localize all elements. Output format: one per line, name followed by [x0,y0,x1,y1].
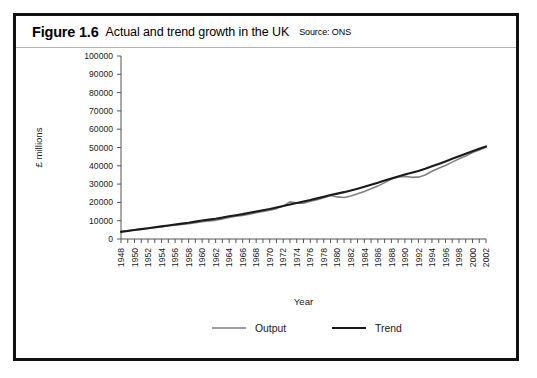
x-tick-label: 1968 [251,248,261,267]
y-tick-label: 50000 [89,143,113,153]
x-tick-label: 1966 [238,248,248,267]
x-tick-label: 1948 [116,248,126,267]
x-tick-label: 1994 [427,248,437,267]
data-series [121,146,486,231]
x-tick-label: 1956 [170,248,180,267]
x-tick-label: 1972 [278,248,288,267]
series-line-trend [121,146,486,231]
y-tick-label: 60000 [89,124,113,134]
y-tick-label: 0 [108,234,113,244]
y-tick-label: 70000 [89,106,113,116]
series-line-output [121,147,486,231]
x-tick-label: 2000 [468,248,478,267]
x-tick-label: 1984 [360,248,370,267]
y-tick-label: 20000 [89,197,113,207]
y-tick-label: 10000 [89,216,113,226]
y-tick-label: 100000 [84,51,113,61]
x-tick-label: 1970 [265,248,275,267]
x-tick-label: 1962 [211,248,221,267]
x-axis: 1948195019521954195619581960196219641966… [116,239,491,267]
x-axis-title: Year [294,296,314,307]
figure-box: Figure 1.6 Actual and trend growth in th… [13,13,519,361]
x-tick-label: 1998 [454,248,464,267]
x-tick-label: 1988 [387,248,397,267]
figure-header: Figure 1.6 Actual and trend growth in th… [16,16,516,48]
y-tick-label: 40000 [89,161,113,171]
x-tick-label: 1960 [197,248,207,267]
x-tick-label: 1950 [130,248,140,267]
x-tick-label: 1976 [305,248,315,267]
line-chart: 0100002000030000400005000060000700008000… [16,48,516,361]
y-axis: 0100002000030000400005000060000700008000… [84,51,121,244]
x-tick-label: 2002 [481,248,491,267]
x-tick-label: 1996 [441,248,451,267]
figure-title: Actual and trend growth in the UK [106,25,290,39]
figure-number: Figure 1.6 [32,24,99,40]
x-tick-label: 1974 [292,248,302,267]
x-tick-label: 1982 [346,248,356,267]
figure-source: Source: ONS [299,27,351,37]
chart-plot-area: 0100002000030000400005000060000700008000… [16,48,516,361]
y-axis-title: £ millions [33,127,44,167]
chart-legend: OutputTrend [212,323,402,334]
x-tick-label: 1980 [332,248,342,267]
x-tick-label: 1952 [143,248,153,267]
y-tick-label: 30000 [89,179,113,189]
x-tick-label: 1964 [224,248,234,267]
x-tick-label: 1954 [157,248,167,267]
y-tick-label: 80000 [89,88,113,98]
x-tick-label: 1978 [319,248,329,267]
y-tick-label: 90000 [89,69,113,79]
x-tick-label: 1990 [400,248,410,267]
x-tick-label: 1986 [373,248,383,267]
legend-label-output: Output [255,323,286,334]
legend-label-trend: Trend [375,323,402,334]
x-tick-label: 1992 [414,248,424,267]
x-tick-label: 1958 [184,248,194,267]
